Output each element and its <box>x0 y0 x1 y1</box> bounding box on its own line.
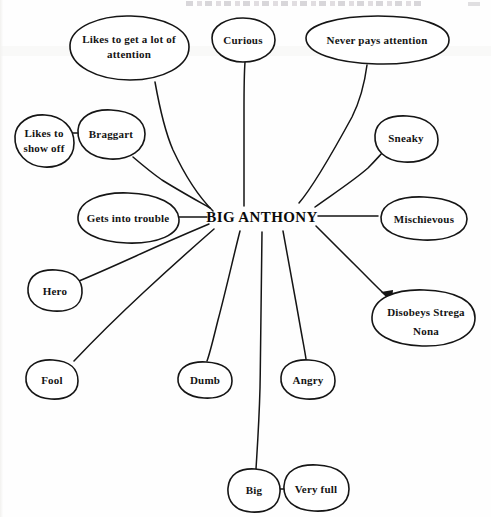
node-curious-bubble[interactable] <box>212 18 275 62</box>
scanned-page: BIG ANTHONY Likes to get a lot of attent… <box>0 0 491 517</box>
node-sneaky-bubble[interactable] <box>375 116 438 162</box>
node-disobeys-bubble[interactable] <box>372 290 475 346</box>
edge-center-likes-attention <box>155 82 213 211</box>
node-never-pays-attention-bubble[interactable] <box>306 16 449 64</box>
node-big-bubble[interactable] <box>228 469 280 512</box>
node-very-full-bubble[interactable] <box>284 465 349 511</box>
node-dumb-bubble[interactable] <box>178 362 232 398</box>
character-web-diagram <box>0 0 491 517</box>
node-angry-bubble[interactable] <box>281 360 335 399</box>
node-gets-into-trouble-bubble[interactable] <box>78 193 179 243</box>
node-braggart-bubble[interactable] <box>78 110 145 159</box>
node-hero-bubble[interactable] <box>28 270 82 311</box>
edge-center-never-pays-attention <box>299 65 367 203</box>
node-fool-bubble[interactable] <box>26 360 78 399</box>
node-mischievous-bubble[interactable] <box>381 197 467 240</box>
edge-center-dumb <box>207 231 240 361</box>
edge-center-disobeys <box>316 226 391 300</box>
node-likes-attention-bubble[interactable] <box>70 16 189 80</box>
center-node-label[interactable]: BIG ANTHONY <box>198 209 326 226</box>
edge-center-sneaky <box>315 151 384 207</box>
edge-center-angry <box>283 231 306 359</box>
edge-center-curious <box>244 62 245 206</box>
node-likes-show-off-bubble[interactable] <box>15 115 74 167</box>
edge-center-big <box>256 232 262 469</box>
edge-center-fool <box>74 229 214 361</box>
